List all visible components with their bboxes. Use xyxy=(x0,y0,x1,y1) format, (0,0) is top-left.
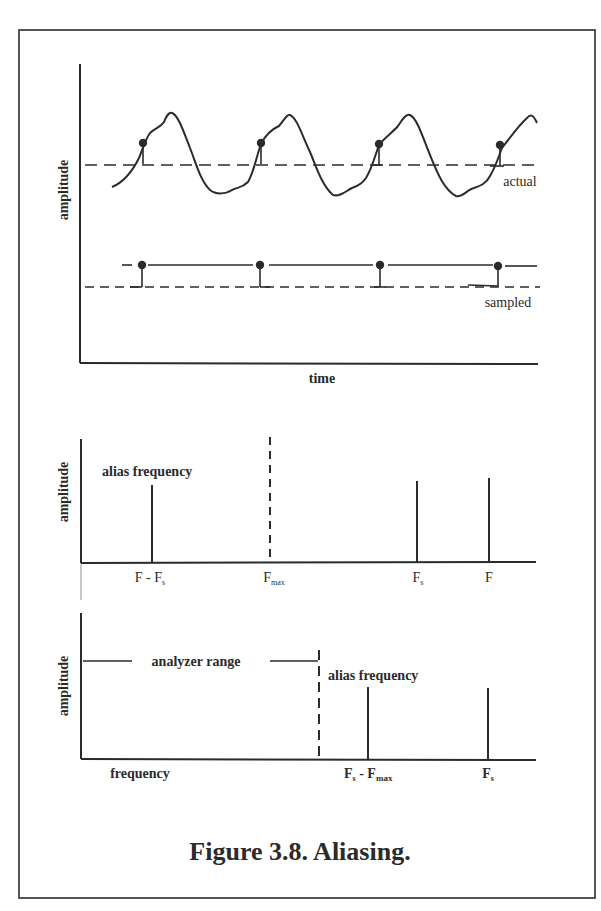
tick-Fmax: Fmax xyxy=(263,570,285,587)
sample-dot xyxy=(140,140,147,147)
sample-dot xyxy=(139,262,146,269)
actual-label: actual xyxy=(503,174,537,189)
figure-caption: Figure 3.8. Aliasing. xyxy=(189,837,410,866)
spectrum1-y-axis-label: amplitude xyxy=(56,462,71,523)
spectrum2-x-axis-label: frequency xyxy=(110,766,170,781)
spectrum-panel-2: analyzer range alias frequency amplitude… xyxy=(56,613,536,783)
tick-Fs-2: Fs xyxy=(482,766,494,783)
spectrum1-alias-annotation: alias frequency xyxy=(102,464,192,479)
time-x-axis-label: time xyxy=(309,371,335,386)
spectrum-panel-1: alias frequency amplitude F - Fs Fmax Fs… xyxy=(56,437,536,600)
tick-F: F xyxy=(485,570,493,585)
time-y-axis-label: amplitude xyxy=(56,160,71,221)
sample-dot xyxy=(495,263,502,270)
time-domain-panel: actual sampled amplitude time xyxy=(56,64,540,386)
tick-Fs: Fs xyxy=(413,570,424,587)
sample-dot xyxy=(258,140,265,147)
tick-F-minus-Fs: F - Fs xyxy=(135,570,165,587)
time-x-axis xyxy=(80,363,538,364)
figure-canvas: actual sampled amplitude time alias freq… xyxy=(0,0,601,911)
sample-dot xyxy=(377,262,384,269)
analyzer-range-label: analyzer range xyxy=(152,654,241,669)
sample-dot xyxy=(497,142,504,149)
tick-Fs-minus-Fmax: Fs - Fmax xyxy=(344,766,393,783)
sampled-label: sampled xyxy=(485,295,532,310)
sampled-signal xyxy=(122,262,537,287)
sample-dot xyxy=(257,262,264,269)
actual-waveform xyxy=(112,113,537,196)
spectrum2-y-axis-label: amplitude xyxy=(56,656,71,717)
spectrum2-x-axis xyxy=(81,759,536,760)
spectrum2-alias-annotation: alias frequency xyxy=(328,668,418,683)
spectrum1-x-axis xyxy=(81,562,536,563)
sample-dot xyxy=(376,141,383,148)
